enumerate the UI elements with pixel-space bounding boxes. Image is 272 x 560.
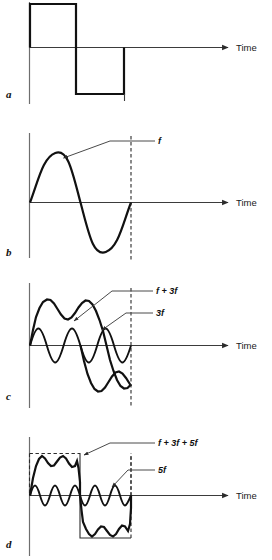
panel-c-label-third: 3f xyxy=(156,308,165,318)
figure-canvas: Time a f b xyxy=(0,0,272,560)
panel-c-time-label: Time xyxy=(236,340,257,351)
panel-c-label-sum: f + 3f xyxy=(156,286,178,296)
panel-d-group: f + 3f + 5f 5f d xyxy=(6,437,228,556)
panel-d-time-label: Time xyxy=(236,490,257,501)
panel-d-label-sum: f + 3f + 5f xyxy=(158,438,199,448)
panel-a-square-wave xyxy=(30,4,124,94)
panel-b-group: f b xyxy=(6,133,228,262)
panel-d-letter: d xyxy=(6,538,12,550)
panel-d-leader-fifth xyxy=(112,470,155,487)
panel-a-time-label: Time xyxy=(236,42,257,53)
panel-b-time-label: Time xyxy=(236,197,257,208)
panel-d-leader-sum xyxy=(84,443,155,455)
panel-c-leader-third xyxy=(102,313,153,330)
panel-c-letter: c xyxy=(6,390,11,402)
panel-a-group: Time a xyxy=(6,2,257,104)
panel-d-label-fifth: 5f xyxy=(158,465,167,475)
panel-b-label-f: f xyxy=(158,136,162,146)
panel-c-group: f + 3f 3f c xyxy=(6,283,228,408)
panel-b-letter: b xyxy=(6,246,12,258)
panel-c-leader-sum xyxy=(74,291,153,321)
panel-a-letter: a xyxy=(6,88,12,100)
panel-c-sum-f-3f-lobe2 xyxy=(81,346,132,392)
fourier-square-wave-figure: Time a f b xyxy=(0,0,272,560)
panel-b-leader-f xyxy=(64,141,156,158)
